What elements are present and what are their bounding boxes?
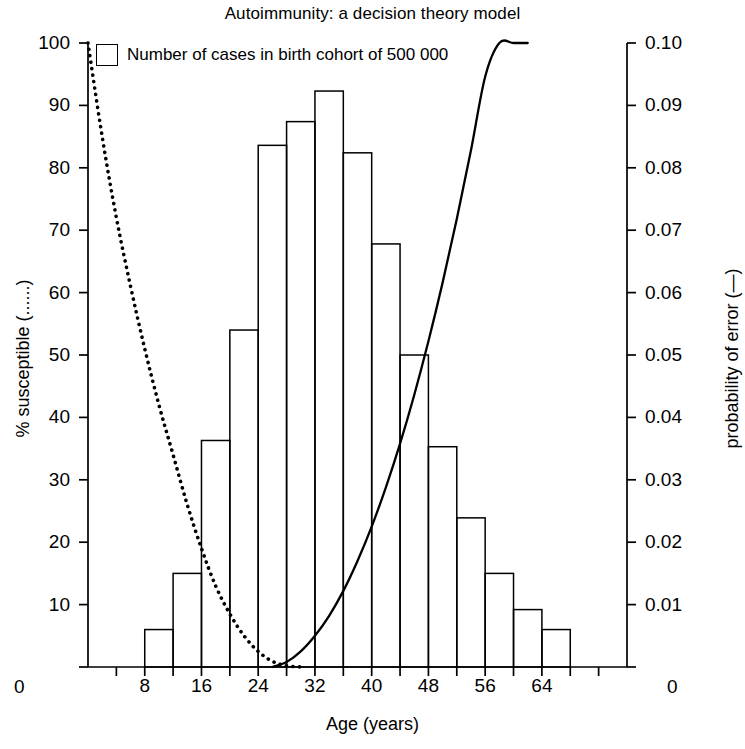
x-axis-tick-label: 8: [123, 676, 167, 695]
bar: [485, 573, 513, 667]
y-axis-right-tick-label: 0.05: [645, 345, 717, 364]
y-axis-left-title: % susceptible (......): [13, 199, 34, 519]
y-axis-left-tick-label: 90: [12, 95, 70, 114]
y-axis-left-tick-label: 20: [12, 532, 70, 551]
y-axis-right-tick-label: 0.04: [645, 407, 717, 426]
bar: [343, 153, 371, 667]
x-axis-origin-label-left: 0: [14, 676, 25, 698]
y-axis-right-title: probability of error (—): [722, 199, 743, 519]
bar: [400, 355, 428, 667]
x-axis-tick-label: 40: [350, 676, 394, 695]
bar: [514, 610, 542, 667]
y-axis-right-tick-label: 0.02: [645, 532, 717, 551]
bar: [145, 630, 173, 667]
x-axis-tick-label: 24: [236, 676, 280, 695]
chart-figure: Autoimmunity: a decision theory model Nu…: [0, 0, 745, 749]
bar: [201, 440, 229, 667]
plot-area: [0, 0, 745, 749]
x-axis-origin-label-right: 0: [667, 676, 678, 698]
line-series: [88, 41, 528, 667]
x-axis-tick-label: 16: [179, 676, 223, 695]
x-axis-tick-label: 64: [520, 676, 564, 695]
bar: [173, 573, 201, 667]
y-axis-left-tick-label: 10: [12, 595, 70, 614]
bar: [258, 145, 286, 667]
bar: [542, 630, 570, 667]
bar: [230, 330, 258, 667]
y-axis-right-tick-label: 0.09: [645, 95, 717, 114]
y-axis-left-tick-label: 100: [12, 33, 70, 52]
bar: [287, 122, 315, 667]
x-axis-title: Age (years): [0, 714, 745, 735]
y-axis-right-tick-label: 0.08: [645, 158, 717, 177]
y-axis-right-tick-label: 0.10: [645, 33, 717, 52]
bar: [315, 91, 343, 667]
y-axis-right-tick-label: 0.07: [645, 220, 717, 239]
y-axis-left-tick-label: 80: [12, 158, 70, 177]
y-axis-right-tick-label: 0.01: [645, 595, 717, 614]
x-axis-tick-label: 32: [293, 676, 337, 695]
bar: [428, 447, 456, 667]
bar: [457, 518, 485, 667]
x-axis-tick-label: 48: [406, 676, 450, 695]
bar-series: [145, 91, 571, 667]
y-axis-right-tick-label: 0.03: [645, 470, 717, 489]
y-axis-right-tick-label: 0.06: [645, 283, 717, 302]
x-axis-tick-label: 56: [463, 676, 507, 695]
axes-frame: [79, 43, 636, 676]
